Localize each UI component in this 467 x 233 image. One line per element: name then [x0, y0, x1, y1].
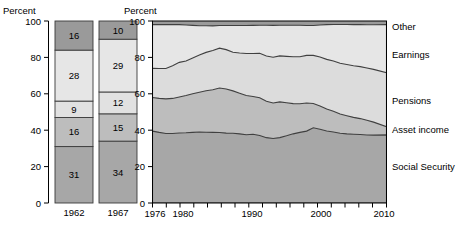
x-label-2010: 2010 — [373, 208, 394, 219]
left-tick-20: 20 — [30, 161, 41, 172]
left-tick-80: 80 — [30, 52, 41, 63]
bar-1962-year-label: 1962 — [63, 207, 84, 218]
chart-svg: Percent 100 80 60 40 20 0 — [0, 0, 467, 233]
left-tick-0: 0 — [36, 198, 41, 209]
legend-label-earnings: Earnings — [392, 49, 430, 60]
legend: Other Earnings Pensions Asset income Soc… — [392, 21, 455, 172]
legend-label-pensions: Pensions — [392, 95, 431, 106]
x-label-1980: 1980 — [172, 208, 193, 219]
right-panel: Percent 100 80 60 40 20 0 — [124, 5, 395, 219]
left-tick-100: 100 — [25, 16, 41, 27]
legend-label-other: Other — [392, 21, 416, 32]
x-label-1990: 1990 — [241, 208, 262, 219]
x-label-1976: 1976 — [144, 208, 165, 219]
right-y-axis-title: Percent — [124, 5, 157, 16]
bar-1962-value-social-security: 31 — [69, 169, 80, 180]
left-panel: Percent 100 80 60 40 20 0 — [3, 5, 137, 218]
legend-label-asset-income: Asset income — [392, 124, 449, 135]
bar-1962[interactable]: 31 16 9 28 16 — [55, 21, 93, 203]
figure-container: Percent 100 80 60 40 20 0 — [0, 0, 467, 233]
right-tick-20: 20 — [134, 161, 145, 172]
bar-1967-year-label: 1967 — [107, 207, 128, 218]
bar-1962-value-other: 16 — [69, 30, 80, 41]
bar-1962-value-earnings: 28 — [69, 70, 80, 81]
left-y-axis-title: Percent — [3, 5, 36, 16]
area-series-group — [153, 21, 387, 203]
right-tick-60: 60 — [134, 88, 145, 99]
bar-1967-value-asset-income: 15 — [113, 122, 124, 133]
x-label-2000: 2000 — [310, 208, 331, 219]
bar-1967-value-social-security: 34 — [113, 167, 124, 178]
bar-1967-value-pensions: 12 — [113, 97, 124, 108]
left-y-ticks: 100 80 60 40 20 0 — [25, 16, 48, 209]
area-social-security[interactable] — [153, 128, 387, 203]
bar-1962-value-asset-income: 16 — [69, 126, 80, 137]
left-tick-60: 60 — [30, 88, 41, 99]
bar-1967-value-earnings: 29 — [113, 60, 124, 71]
bar-1962-value-pensions: 9 — [71, 104, 76, 115]
left-tick-40: 40 — [30, 125, 41, 136]
bar-1967[interactable]: 34 15 12 29 10 — [99, 21, 137, 203]
right-tick-100: 100 — [129, 16, 145, 27]
legend-label-social-security: Social Security — [392, 161, 455, 172]
bar-1967-value-other: 10 — [113, 25, 124, 36]
right-tick-80: 80 — [134, 52, 145, 63]
right-tick-40: 40 — [134, 125, 145, 136]
